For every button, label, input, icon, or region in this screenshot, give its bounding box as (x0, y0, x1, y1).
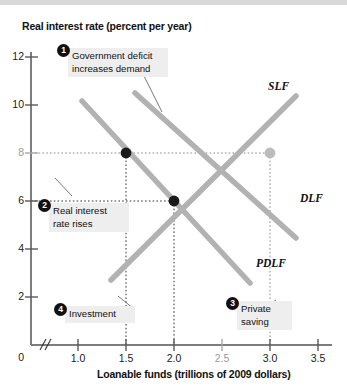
x-tick-1-5: 1.5 (109, 352, 143, 364)
callout-1-text: Government deficit increases demand (68, 48, 168, 77)
y-tick-4: 4 (2, 242, 24, 254)
chart-canvas (0, 0, 347, 392)
point-new-equilibrium (265, 148, 276, 159)
y-tick-10: 10 (2, 98, 24, 110)
curve-dlf (135, 93, 296, 238)
callout-2-badge: 2 (38, 199, 51, 212)
x-axis-title: Loanable funds (trillions of 2009 dollar… (97, 368, 290, 380)
point-quantity-demanded (121, 148, 132, 159)
x-tick-3-0: 3.0 (253, 352, 287, 364)
y-tick-6: 6 (2, 194, 24, 206)
x-tick-1-0: 1.0 (61, 352, 95, 364)
x-tick-3-5: 3.5 (301, 352, 335, 364)
x-tick-2-5: 2.5 (205, 352, 239, 364)
curve-label-dlf: DLF (300, 192, 323, 204)
callout-1-badge: 1 (57, 44, 70, 57)
callout-3-text: Private saving (237, 301, 292, 330)
callout-4-badge: 4 (54, 303, 67, 316)
point-initial-equilibrium (169, 196, 180, 207)
chart-figure: Real interest rate (percent per year) (0, 0, 347, 392)
curve-label-pdlf: PDLF (256, 257, 286, 269)
y-tick-0: 0 (2, 351, 24, 363)
y-tick-2: 2 (2, 290, 24, 302)
callout-3-badge: 3 (226, 297, 239, 310)
curve-label-slf: SLF (268, 80, 289, 92)
x-tick-2-0: 2.0 (157, 352, 191, 364)
curve-pdlf (82, 101, 250, 283)
y-tick-8: 8 (2, 146, 24, 158)
y-tick-12: 12 (2, 50, 24, 62)
curve-slf (111, 96, 296, 280)
callout-4-text: Investment (65, 306, 135, 323)
callout-2-text: Real interest rate rises (49, 203, 129, 232)
